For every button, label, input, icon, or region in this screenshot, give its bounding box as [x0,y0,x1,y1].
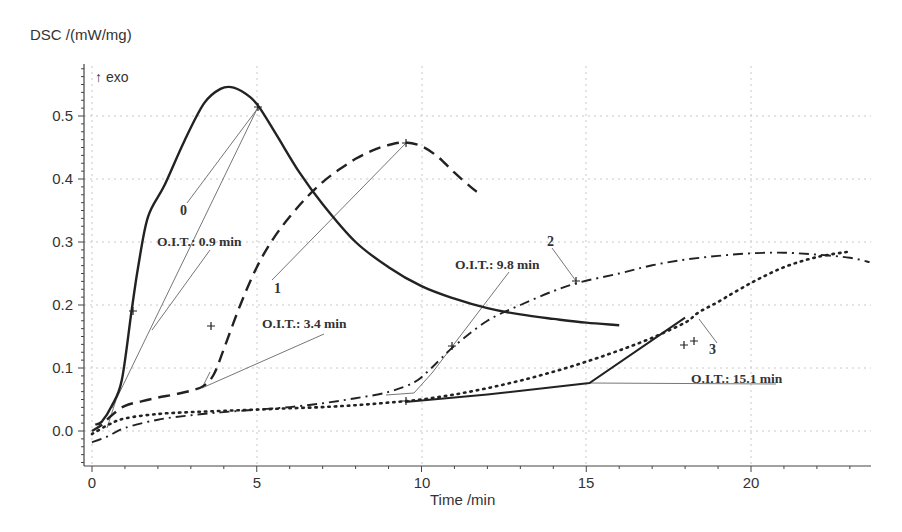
curve-label-3: 3 [709,342,716,357]
y-tick-label: 0.0 [52,422,73,439]
curve-label-2: 2 [547,234,554,249]
y-tick-label: 0.1 [52,359,73,376]
dsc-chart: DSC /(mW/mg) ↑ exo 0.0 0.1 0.2 0.3 0.4 0… [0,0,902,532]
x-axis-label: Time /min [430,491,495,508]
curve-label-1: 1 [274,281,281,296]
y-tick-labels: 0.0 0.1 0.2 0.3 0.4 0.5 [52,107,73,439]
y-tick-label: 0.2 [52,296,73,313]
curve-3-solid-segment [405,318,685,402]
y-tick-label: 0.5 [52,107,73,124]
oit-label-3: O.I.T.: 15.1 min [691,371,783,386]
y-tick-label: 0.3 [52,233,73,250]
y-axis-label: DSC /(mW/mg) [30,26,132,43]
oit-tangent-lines [107,107,776,428]
oit-label-0: O.I.T.: 0.9 min [157,234,242,249]
x-tick-labels: 0 5 10 15 20 [88,474,760,491]
x-tick-label: 5 [253,474,261,491]
y-tick-label: 0.4 [52,170,73,187]
oit-label-1: O.I.T.: 3.4 min [262,316,347,331]
curve-label-0: 0 [180,203,187,218]
curve-3-dotted [92,252,850,435]
oit-markers [129,103,698,405]
oit-label-2: O.I.T.: 9.8 min [455,257,540,272]
x-tick-label: 0 [88,474,96,491]
y-axis-ticks [78,69,84,463]
x-tick-label: 10 [414,474,431,491]
x-tick-label: 15 [578,474,595,491]
x-axis-ticks [92,466,850,472]
exo-direction-label: ↑ exo [95,69,129,85]
x-tick-label: 20 [743,474,760,491]
